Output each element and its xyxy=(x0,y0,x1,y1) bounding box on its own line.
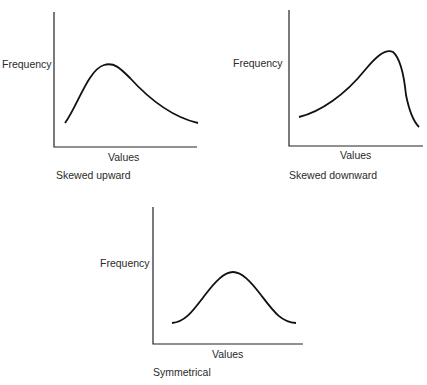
x-axis-label: Values xyxy=(212,348,243,360)
x-axis-label: Values xyxy=(108,151,139,163)
chart-caption: Symmetrical xyxy=(153,366,211,378)
y-axis-label: Frequency xyxy=(2,58,52,70)
axes xyxy=(54,12,197,147)
distribution-curve xyxy=(299,51,419,127)
chart-symmetrical xyxy=(153,207,303,344)
distribution-curve xyxy=(65,64,198,123)
chart-caption: Skewed downward xyxy=(289,169,377,181)
chart-caption: Skewed upward xyxy=(56,169,131,181)
distribution-curve xyxy=(172,272,296,323)
x-axis-label: Values xyxy=(340,149,371,161)
y-axis-label: Frequency xyxy=(100,257,150,269)
charts-canvas xyxy=(0,0,427,385)
chart-skewed-downward xyxy=(289,10,423,146)
axes xyxy=(153,207,303,344)
chart-skewed-upward xyxy=(54,12,198,147)
y-axis-label: Frequency xyxy=(233,57,283,69)
